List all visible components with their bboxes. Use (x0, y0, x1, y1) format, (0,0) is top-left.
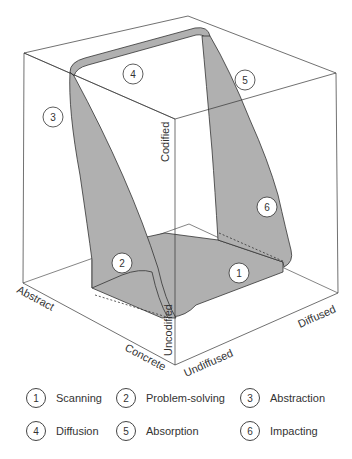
legend-number-6: 6 (240, 421, 260, 441)
legend-label-diffusion: Diffusion (56, 425, 99, 437)
legend-number-5: 5 (116, 421, 136, 441)
axis-label-undiffused: Undiffused (182, 347, 235, 379)
marker-4: 4 (123, 64, 143, 84)
legend-item-impacting: 6 Impacting (240, 421, 318, 441)
cube-diagram: Codified Uncodified Abstract Concrete Un… (0, 0, 352, 390)
axis-label-abstract: Abstract (15, 283, 56, 313)
marker-3: 3 (43, 107, 63, 127)
marker-2: 2 (112, 253, 132, 273)
marker-6-number: 6 (264, 202, 270, 213)
legend-number-4: 4 (26, 421, 46, 441)
legend-label-absorption: Absorption (146, 425, 199, 437)
marker-5-number: 5 (242, 75, 248, 86)
legend-item-problem-solving: 2 Problem-solving (116, 388, 225, 408)
legend-label-problem-solving: Problem-solving (146, 392, 225, 404)
axis-label-diffused: Diffused (296, 303, 338, 330)
legend-item-absorption: 5 Absorption (116, 421, 199, 441)
marker-1: 1 (229, 263, 249, 283)
legend-number-2: 2 (116, 388, 136, 408)
marker-5: 5 (235, 70, 255, 90)
sc-curve-shape (70, 28, 292, 318)
legend-number-3: 3 (240, 388, 260, 408)
legend-item-abstraction: 3 Abstraction (240, 388, 325, 408)
legend-number-1: 1 (26, 388, 46, 408)
axis-label-codified: Codified (159, 122, 171, 162)
legend-label-scanning: Scanning (56, 392, 102, 404)
marker-6: 6 (257, 197, 277, 217)
legend: 1 Scanning 2 Problem-solving 3 Abstracti… (0, 388, 352, 459)
marker-3-number: 3 (50, 112, 56, 123)
marker-1-number: 1 (236, 268, 242, 279)
legend-label-abstraction: Abstraction (270, 392, 325, 404)
marker-2-number: 2 (119, 258, 125, 269)
axis-label-uncodified: Uncodified (162, 304, 174, 356)
legend-item-scanning: 1 Scanning (26, 388, 102, 408)
legend-label-impacting: Impacting (270, 425, 318, 437)
legend-item-diffusion: 4 Diffusion (26, 421, 99, 441)
marker-4-number: 4 (130, 69, 136, 80)
